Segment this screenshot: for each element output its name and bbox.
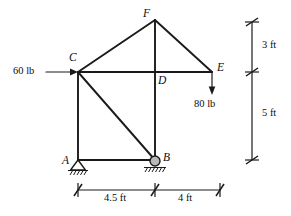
dimension-label-3-ft: 3 ft xyxy=(262,40,276,51)
joint-label-C: C xyxy=(69,52,77,64)
member-F-E xyxy=(155,20,212,72)
pin-support-A xyxy=(68,160,88,175)
pin-triangle-icon xyxy=(71,160,86,170)
vertical-dimension-line xyxy=(245,18,259,164)
roller-circle-icon xyxy=(150,156,160,166)
truss-members xyxy=(78,20,212,160)
load-arrow-80lb xyxy=(209,72,216,95)
joint-label-B: B xyxy=(163,152,170,164)
truss-diagram: F C D E A B 60 lb 80 lb 4.5 ft 4 ft 3 ft… xyxy=(0,0,291,216)
horizontal-dimension-line xyxy=(74,183,224,197)
roller-hatching xyxy=(145,168,165,172)
truss-diagram-canvas xyxy=(0,0,291,216)
load-arrow-60lb xyxy=(46,69,78,76)
joint-label-F: F xyxy=(143,8,150,20)
load-label-60lb: 60 lb xyxy=(13,66,34,77)
member-C-F xyxy=(78,20,155,72)
dimension-label-4-5-ft: 4.5 ft xyxy=(104,193,126,204)
load-80lb-arrowhead xyxy=(209,87,216,96)
dimension-label-5-ft: 5 ft xyxy=(262,108,276,119)
dimension-label-4-ft: 4 ft xyxy=(178,193,192,204)
joint-label-E: E xyxy=(217,62,224,74)
joint-label-D: D xyxy=(158,75,166,87)
load-60lb-arrowhead xyxy=(70,69,78,76)
load-label-80lb: 80 lb xyxy=(194,99,215,110)
joint-label-A: A xyxy=(62,155,69,167)
member-C-B xyxy=(78,72,155,160)
pin-hatching xyxy=(70,171,87,175)
